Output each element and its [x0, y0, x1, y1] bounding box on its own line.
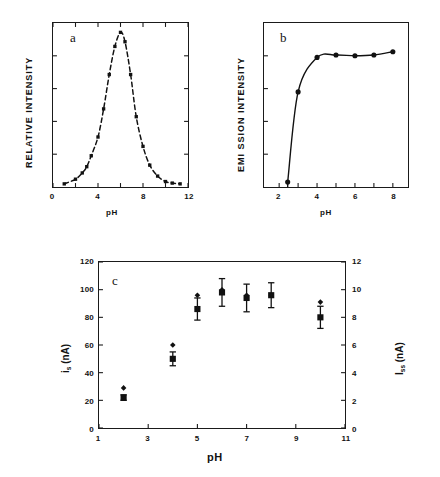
- panel-c-datapoints: [99, 262, 345, 428]
- panel-c-y-left-unit: (nA): [60, 344, 71, 367]
- panel-a-x-tick: 12: [184, 192, 193, 201]
- panel-c-x-tick: 7: [244, 434, 249, 443]
- panel-c-y-tick-right: 6: [352, 341, 372, 350]
- panel-c-y-right-symbol: I: [394, 372, 405, 375]
- panel-a: a RELATIVE INTENSITY pH 04812: [0, 0, 220, 230]
- panel-c-y-left-symbol: i: [60, 370, 71, 373]
- panel-a-x-tick: 4: [95, 192, 100, 201]
- panel-c-x-axis-label: pH: [207, 451, 223, 463]
- panel-b-y-axis-label: EMI SSION INTENSITY: [236, 57, 246, 172]
- panel-c-y-right-unit: (nA): [394, 342, 405, 365]
- panel-c-y-tick-left: 20: [74, 397, 94, 406]
- panel-b-curve: [264, 23, 408, 187]
- panel-c-y-axis-label-left: is (nA): [60, 344, 72, 373]
- panel-b-letter: b: [280, 30, 287, 46]
- panel-a-y-axis-label: RELATIVE INTENSITY: [24, 57, 34, 168]
- panel-b-x-tick: 6: [353, 192, 358, 201]
- panel-a-x-tick: 0: [50, 192, 55, 201]
- panel-b-x-tick: 8: [391, 192, 396, 201]
- panel-c-x-tick: 3: [145, 434, 150, 443]
- panel-c-y-tick-left: 80: [74, 313, 94, 322]
- panel-c-y-tick-right: 0: [352, 425, 372, 434]
- panel-b: b EMI SSION INTENSITY pH 2468: [220, 0, 440, 230]
- panel-c-y-tick-left: 0: [74, 425, 94, 434]
- panel-c-y-left-subscript: s: [65, 367, 72, 371]
- figure-container: a RELATIVE INTENSITY pH 04812 b EMI SSIO…: [0, 0, 440, 477]
- panel-c: c is (nA) Iss (nA) pH 135791102040608010…: [0, 245, 440, 477]
- panel-c-y-tick-right: 8: [352, 313, 372, 322]
- panel-c-x-tick: 1: [96, 434, 101, 443]
- panel-c-x-tick: 5: [195, 434, 200, 443]
- panel-a-curve: [53, 23, 188, 187]
- panel-c-y-right-subscript: ss: [399, 365, 406, 372]
- panel-c-y-tick-right: 2: [352, 397, 372, 406]
- panel-c-plot-area: [98, 261, 346, 429]
- panel-c-y-tick-right: 10: [352, 285, 372, 294]
- panel-c-x-tick: 9: [294, 434, 299, 443]
- panel-b-plot-area: [263, 22, 409, 188]
- panel-c-y-tick-right: 4: [352, 369, 372, 378]
- panel-c-y-tick-left: 100: [74, 285, 94, 294]
- panel-b-x-axis-label: pH: [320, 208, 332, 217]
- panel-c-y-tick-left: 60: [74, 341, 94, 350]
- panel-b-x-tick: 2: [276, 192, 281, 201]
- panel-a-plot-area: [52, 22, 189, 188]
- panel-c-letter: c: [112, 273, 118, 289]
- panel-c-x-tick: 11: [342, 434, 351, 443]
- panel-a-x-tick: 8: [141, 192, 146, 201]
- panel-c-y-tick-left: 120: [74, 257, 94, 266]
- panel-a-x-axis-label: pH: [106, 208, 118, 217]
- panel-c-y-tick-left: 40: [74, 369, 94, 378]
- panel-a-letter: a: [70, 30, 76, 46]
- panel-c-y-axis-label-right: Iss (nA): [394, 342, 406, 375]
- panel-c-y-tick-right: 12: [352, 257, 372, 266]
- panel-b-x-tick: 4: [314, 192, 319, 201]
